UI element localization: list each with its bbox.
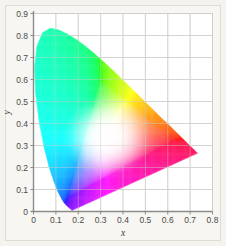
x-tick-label: 0.7: [184, 215, 196, 225]
x-tick-label: 0.1: [50, 215, 62, 225]
y-tick-label: 0.1: [16, 185, 28, 195]
x-tick-label: 0.8: [207, 215, 219, 225]
figure-frame: 00.10.20.30.40.50.60.70.8 00.10.20.30.40…: [0, 0, 226, 246]
y-tick-label: 0.9: [16, 9, 28, 19]
y-tick-label: 0.3: [16, 141, 28, 151]
y-tick-label: 0.7: [16, 53, 28, 63]
y-tick-label: 0: [23, 207, 28, 217]
x-tick-label: 0.4: [117, 215, 129, 225]
y-tick-label: 0.2: [16, 163, 28, 173]
y-tick-label: 0.6: [16, 75, 28, 85]
x-tick-label: 0.6: [162, 215, 174, 225]
y-tick-label: 0.8: [16, 31, 28, 41]
y-tick-labels: 00.10.20.30.40.50.60.70.80.9: [16, 9, 28, 217]
y-tick-label: 0.4: [16, 119, 28, 129]
x-tick-labels: 00.10.20.30.40.50.60.70.8: [31, 215, 219, 225]
x-tick-label: 0: [31, 215, 36, 225]
x-tick-label: 0.3: [95, 215, 107, 225]
y-axis-title: y: [2, 110, 12, 116]
x-axis-title: x: [120, 228, 126, 238]
chromaticity-chart: 00.10.20.30.40.50.60.70.8 00.10.20.30.40…: [0, 0, 226, 246]
x-tick-label: 0.5: [139, 215, 151, 225]
y-tick-label: 0.5: [16, 97, 28, 107]
x-tick-label: 0.2: [72, 215, 84, 225]
